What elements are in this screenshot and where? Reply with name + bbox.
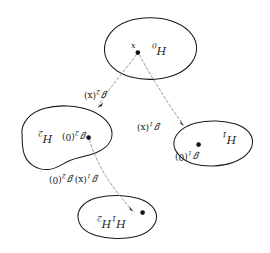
edge-label-g2-x-base: ℊ — [100, 91, 109, 101]
region-label-h1h2-sub1: 1 — [111, 214, 116, 223]
region-label-h1-sub: 1 — [222, 130, 227, 139]
region-label-h0-base: H — [157, 44, 167, 57]
region-label-h1h2-base2: H — [102, 217, 112, 230]
edge-label-g1-x: ℊ1(x) — [137, 121, 162, 132]
point-label-x: x — [131, 42, 136, 50]
point-label-g2-zero: ℊ2(0) — [62, 130, 88, 141]
point-label-g2-zero-base: ℊ — [79, 132, 88, 142]
edge-label-g1-x-base: ℊ — [153, 123, 162, 133]
edge-label-g1x-g2zero-arg1: (x) — [75, 175, 87, 185]
diagram-svg — [0, 0, 270, 253]
region-label-h2-base: H — [43, 132, 53, 145]
edge-label-g1-x-arg: (x) — [137, 123, 149, 133]
arrow-head-h0-to-h1 — [177, 121, 184, 126]
region-label-h2-sub: 2 — [38, 129, 43, 138]
region-label-h1h2-base1: H — [116, 217, 126, 230]
arrow-head-h0-to-h2 — [97, 102, 105, 107]
edge-label-g2-x: ℊ2(x) — [84, 89, 109, 100]
point-label-g1-zero: ℊ1(0) — [175, 150, 201, 161]
edge-label-g1x-g2zero: ℊ1(x)ℊ2(0) — [49, 173, 100, 184]
edge-label-g2-x-sub: 2 — [96, 89, 100, 96]
region-label-h1h2-sub2: 2 — [97, 214, 102, 223]
figure-canvas: H0 x H2 ℊ2(0) H1 ℊ1(0) H1H2 ℊ2(x) ℊ1(x) … — [0, 0, 270, 253]
region-outline-h0 — [104, 18, 196, 80]
point-label-g2-zero-arg: (0) — [62, 132, 75, 142]
arrow-line-h0-to-h1 — [140, 55, 183, 123]
point-marker-h1h2 — [140, 210, 145, 215]
edge-label-g1x-g2zero-sub1: 1 — [87, 173, 91, 180]
point-label-g1-zero-sub: 1 — [188, 150, 192, 157]
arrow-head-h2-to-h1h2 — [126, 207, 133, 212]
region-label-h0-sub: 0 — [152, 41, 157, 50]
edge-label-g1x-g2zero-base1: ℊ — [91, 175, 100, 185]
point-marker-g1-zero — [196, 142, 201, 147]
region-label-h1-base: H — [227, 133, 237, 146]
edge-label-g2-x-arg: (x) — [84, 91, 96, 101]
region-label-h1h2: H1H2 — [97, 215, 126, 229]
region-label-h0: H0 — [152, 42, 166, 56]
region-label-h1: H1 — [222, 131, 236, 145]
point-label-x-text: x — [131, 42, 136, 51]
point-label-g2-zero-sub: 2 — [75, 130, 79, 137]
point-marker-x — [136, 50, 141, 55]
edge-label-g1x-g2zero-arg2: (0) — [49, 175, 62, 185]
point-label-g1-zero-base: ℊ — [192, 152, 201, 162]
edge-label-g1-x-sub: 1 — [149, 121, 153, 128]
point-label-g1-zero-arg: (0) — [175, 152, 188, 162]
edge-label-g1x-g2zero-base2: ℊ — [66, 175, 75, 185]
region-label-h2: H2 — [38, 130, 52, 144]
edge-label-g1x-g2zero-sub2: 2 — [62, 173, 66, 180]
